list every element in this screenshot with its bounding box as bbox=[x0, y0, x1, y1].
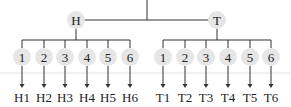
arrow-down-icon bbox=[204, 84, 209, 88]
outcome-label: T5 bbox=[243, 90, 257, 105]
outcome-label: H3 bbox=[57, 90, 73, 105]
arrow-down-icon bbox=[183, 84, 188, 88]
svg-text:1: 1 bbox=[19, 50, 26, 65]
arrow-down-icon bbox=[20, 84, 25, 88]
arrow-down-icon bbox=[128, 84, 133, 88]
outcome-label: H1 bbox=[14, 90, 30, 105]
outcome-label: T1 bbox=[156, 90, 170, 105]
arrow-down-icon bbox=[248, 84, 253, 88]
outcome-label: H5 bbox=[100, 90, 116, 105]
arrow-down-icon bbox=[85, 84, 90, 88]
outcome-label: H2 bbox=[36, 90, 52, 105]
svg-text:2: 2 bbox=[182, 50, 189, 65]
svg-text:5: 5 bbox=[105, 50, 112, 65]
svg-text:5: 5 bbox=[247, 50, 254, 65]
svg-text:2: 2 bbox=[41, 50, 48, 65]
outcome-label: T4 bbox=[221, 90, 236, 105]
arrow-down-icon bbox=[63, 84, 68, 88]
outcome-label: T6 bbox=[264, 90, 279, 105]
svg-text:6: 6 bbox=[127, 50, 134, 65]
arrow-down-icon bbox=[161, 84, 166, 88]
tree-diagram: H T 1H1 2H2 3H3 4H4 5H5 6H6 1T1 2T2 3T3 … bbox=[0, 0, 291, 107]
svg-text:1: 1 bbox=[160, 50, 167, 65]
arrow-down-icon bbox=[42, 84, 47, 88]
node-t-label: T bbox=[213, 13, 221, 28]
outcome-label: H6 bbox=[122, 90, 138, 105]
node-h-label: H bbox=[71, 13, 80, 28]
outcome-label: T3 bbox=[199, 90, 213, 105]
svg-text:4: 4 bbox=[84, 50, 91, 65]
svg-text:4: 4 bbox=[225, 50, 232, 65]
outcome-label: H4 bbox=[79, 90, 95, 105]
svg-text:6: 6 bbox=[268, 50, 275, 65]
svg-text:3: 3 bbox=[203, 50, 210, 65]
branch-t: T bbox=[163, 11, 271, 40]
branch-h: H bbox=[22, 11, 130, 40]
arrow-down-icon bbox=[226, 84, 231, 88]
arrow-down-icon bbox=[106, 84, 111, 88]
svg-text:3: 3 bbox=[62, 50, 69, 65]
arrow-down-icon bbox=[269, 84, 274, 88]
outcome-label: T2 bbox=[178, 90, 192, 105]
